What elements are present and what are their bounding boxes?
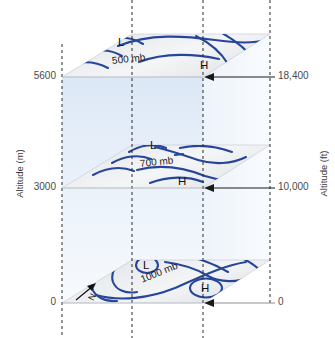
figure-canvas: Altitude (m) 5600 3000 0 Altitude (ft) 1…: [0, 0, 335, 338]
high-label-700mb: H: [178, 175, 186, 187]
left-tick-3000: 3000: [24, 181, 56, 192]
left-tick-5600: 5600: [24, 70, 56, 81]
high-label-1000mb: H: [201, 282, 209, 294]
low-label-500mb: L: [118, 36, 124, 48]
right-tick-18400: 18,400: [278, 70, 309, 81]
high-label-500mb: H: [200, 59, 208, 71]
right-tick-0: 0: [278, 296, 284, 307]
left-tick-0: 0: [24, 296, 56, 307]
arrow-0: [204, 299, 275, 307]
low-label-700mb: L: [150, 139, 156, 151]
right-tick-10000: 10,000: [278, 181, 309, 192]
diagram-graphics: [0, 0, 335, 338]
right-axis-title: Altitude (ft): [318, 139, 329, 209]
left-axis-title: Altitude (m): [14, 139, 25, 209]
